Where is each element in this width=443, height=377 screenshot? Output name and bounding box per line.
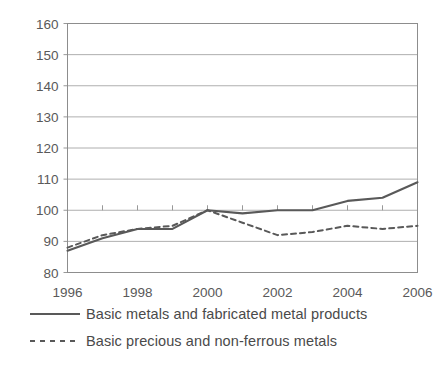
x-tick-label: 1996 bbox=[52, 285, 82, 300]
y-tick-label: 130 bbox=[36, 110, 59, 125]
x-tick-label: 1998 bbox=[122, 285, 152, 300]
x-tick-label: 2000 bbox=[192, 285, 222, 300]
series-line-1 bbox=[68, 182, 418, 250]
legend-swatch-dashed-icon bbox=[28, 335, 82, 347]
y-axis-tick-labels: 1601501401301201101009080 bbox=[36, 17, 59, 281]
y-tick-label: 160 bbox=[36, 17, 59, 32]
data-series-lines bbox=[68, 182, 418, 250]
y-tick-marks bbox=[64, 24, 68, 273]
y-tick-label: 140 bbox=[36, 79, 59, 94]
x-tick-marks bbox=[68, 205, 418, 210]
chart-plot-area: 1601501401301201101009080 19961998200020… bbox=[0, 0, 443, 300]
legend-label-precious-metals: Basic precious and non-ferrous metals bbox=[86, 333, 337, 349]
y-tick-label: 120 bbox=[36, 141, 59, 156]
x-tick-label: 2006 bbox=[402, 285, 432, 300]
line-chart-figure: 1601501401301201101009080 19961998200020… bbox=[0, 0, 443, 377]
legend-label-basic-metals: Basic metals and fabricated metal produc… bbox=[86, 306, 367, 322]
legend-swatch-solid-icon bbox=[28, 308, 82, 320]
y-tick-label: 150 bbox=[36, 48, 59, 63]
legend-item-precious-metals: Basic precious and non-ferrous metals bbox=[0, 327, 443, 354]
y-tick-label: 100 bbox=[36, 203, 59, 218]
x-tick-label: 2002 bbox=[262, 285, 292, 300]
chart-legend: Basic metals and fabricated metal produc… bbox=[0, 300, 443, 377]
y-tick-label: 80 bbox=[43, 266, 58, 281]
legend-item-basic-metals: Basic metals and fabricated metal produc… bbox=[0, 300, 443, 327]
y-tick-label: 110 bbox=[37, 172, 59, 187]
series-line-2 bbox=[68, 210, 418, 247]
x-axis-tick-labels: 199619982000200220042006 bbox=[52, 285, 432, 300]
y-tick-label: 90 bbox=[43, 234, 58, 249]
x-tick-label: 2004 bbox=[332, 285, 363, 300]
